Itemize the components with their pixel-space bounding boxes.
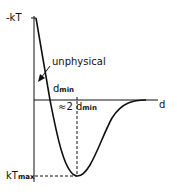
potential-curve bbox=[36, 18, 146, 176]
y-top-label: -kT bbox=[6, 13, 22, 23]
kTmax-label: kTmax bbox=[6, 171, 34, 182]
kTmax-sub: max bbox=[18, 173, 35, 181]
arrow-head-icon bbox=[38, 74, 45, 82]
dmin-label: dmin bbox=[53, 84, 74, 95]
approx-2dmin-label: ≈2 dmin bbox=[58, 102, 97, 113]
potential-diagram bbox=[0, 0, 177, 194]
approx-prefix: ≈2 bbox=[58, 101, 73, 112]
x-axis-label: d bbox=[159, 100, 165, 110]
dmin-sub: min bbox=[59, 86, 74, 94]
approx-sub: min bbox=[82, 104, 97, 112]
kTmax-main: kT bbox=[6, 170, 18, 181]
unphysical-label: unphysical bbox=[52, 57, 106, 67]
